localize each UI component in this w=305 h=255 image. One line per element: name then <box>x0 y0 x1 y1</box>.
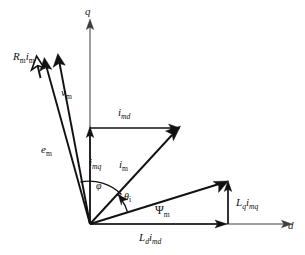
phasor-lq-imq-label: Lqimq <box>235 196 258 211</box>
d-axis-label: d <box>288 219 294 231</box>
phasor-em-line <box>47 67 91 224</box>
phasor-rm-im-group: Rmim <box>12 50 44 78</box>
phasor-vm-label: vm <box>61 86 72 101</box>
phasor-lq-imq-group: Lqimq <box>224 181 258 225</box>
phasor-em-label: em <box>41 143 52 158</box>
phasor-imq-label: imq <box>89 156 102 171</box>
phasor-imd-label: imd <box>118 106 131 121</box>
phasor-vm-group: vm <box>53 54 90 225</box>
phasor-imq-group: imq <box>86 127 101 225</box>
phasor-rm-im-label: Rmim <box>12 50 35 65</box>
d-axis-group: d <box>90 219 294 231</box>
phasor-diagram-figure: q d em vm Rmim imq <box>0 0 305 255</box>
phasor-em-group: em <box>40 58 90 225</box>
phasor-ld-imd-label: Ldimd <box>138 231 161 246</box>
phasor-ld-imd-group: Ldimd <box>90 220 227 246</box>
angle-theta-i-group: θi <box>118 191 131 212</box>
phasor-im-label: im <box>119 158 128 173</box>
phasor-psi-m-label: Ψm <box>155 203 170 219</box>
angle-theta-i-label: θi <box>124 191 131 204</box>
q-axis-label: q <box>85 5 91 17</box>
angle-phi-label: φ <box>96 180 102 191</box>
phasor-imd-group: imd <box>90 106 180 132</box>
phasor-diagram-canvas: q d em vm Rmim imq <box>0 0 305 255</box>
